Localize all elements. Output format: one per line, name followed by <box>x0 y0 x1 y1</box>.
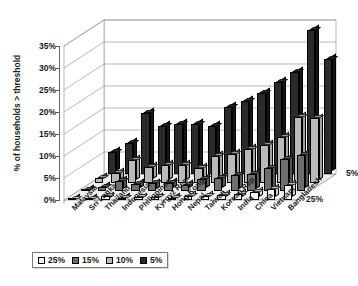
legend-item-15pct[interactable]: 15% <box>72 255 99 265</box>
chart-legend: 25%15%10%5% <box>32 252 168 268</box>
legend-label: 25% <box>48 255 65 265</box>
legend-label: 10% <box>116 255 133 265</box>
legend-swatch-icon <box>106 257 113 264</box>
legend-label: 5% <box>150 255 162 265</box>
depth-axis-label-25pct: 25% <box>306 194 323 204</box>
legend-item-25pct[interactable]: 25% <box>38 255 65 265</box>
legend-swatch-icon <box>72 257 79 264</box>
legend-swatch-icon <box>140 257 147 264</box>
legend-swatch-icon <box>38 257 45 264</box>
legend-item-5pct[interactable]: 5% <box>140 255 162 265</box>
legend-item-10pct[interactable]: 10% <box>106 255 133 265</box>
x-axis-label-china: China <box>253 191 275 213</box>
depth-axis-label-5pct: 5% <box>346 168 358 178</box>
legend-label: 15% <box>82 255 99 265</box>
